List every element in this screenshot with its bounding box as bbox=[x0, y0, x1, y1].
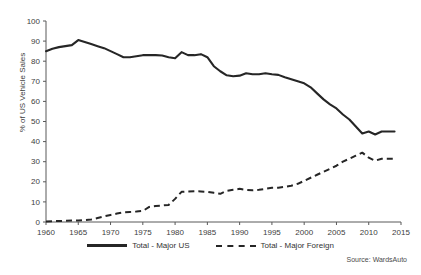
x-tick-label: 2015 bbox=[392, 228, 410, 237]
x-tick-label: 2000 bbox=[295, 228, 313, 237]
y-tick-label: 30 bbox=[31, 157, 40, 166]
x-tick-label: 1975 bbox=[134, 228, 152, 237]
x-tick-label: 1995 bbox=[263, 228, 281, 237]
y-tick-label: 20 bbox=[31, 177, 40, 186]
x-axis-ticks: 1960196519701975198019851990199520002005… bbox=[37, 222, 410, 237]
data-series-group bbox=[46, 40, 395, 221]
y-tick-label: 50 bbox=[31, 117, 40, 126]
y-tick-label: 100 bbox=[27, 17, 41, 26]
y-tick-label: 90 bbox=[31, 37, 40, 46]
y-tick-label: 10 bbox=[31, 198, 40, 207]
y-tick-label: 70 bbox=[31, 77, 40, 86]
legend-swatch-solid-icon bbox=[87, 244, 127, 247]
legend-swatch-dashed-icon bbox=[216, 245, 256, 247]
x-tick-label: 1980 bbox=[166, 228, 184, 237]
x-tick-label: 1990 bbox=[231, 228, 249, 237]
y-tick-label: 60 bbox=[31, 97, 40, 106]
x-tick-label: 1985 bbox=[198, 228, 216, 237]
y-tick-label: 80 bbox=[31, 57, 40, 66]
x-tick-label: 2010 bbox=[360, 228, 378, 237]
series-line-total-major-us bbox=[46, 40, 395, 134]
plot-area: 0102030405060708090100 19601965197019751… bbox=[0, 0, 421, 275]
x-tick-label: 1965 bbox=[69, 228, 87, 237]
series-line-total-major-foreign bbox=[46, 153, 395, 222]
source-note: Source: WardsAuto bbox=[347, 256, 407, 263]
legend-label-total-major-us: Total - Major US bbox=[132, 241, 189, 250]
y-tick-label: 0 bbox=[36, 218, 41, 227]
chart-legend: Total - Major US Total - Major Foreign bbox=[0, 241, 421, 250]
x-tick-label: 2005 bbox=[328, 228, 346, 237]
legend-label-total-major-foreign: Total - Major Foreign bbox=[261, 241, 334, 250]
legend-item-total-major-us: Total - Major US bbox=[87, 241, 189, 250]
x-tick-label: 1960 bbox=[37, 228, 55, 237]
legend-item-total-major-foreign: Total - Major Foreign bbox=[216, 241, 334, 250]
y-tick-label: 40 bbox=[31, 137, 40, 146]
line-chart: % of US Vehicle Sales 010203040506070809… bbox=[0, 0, 421, 275]
y-axis-ticks: 0102030405060708090100 bbox=[27, 17, 46, 227]
x-tick-label: 1970 bbox=[102, 228, 120, 237]
